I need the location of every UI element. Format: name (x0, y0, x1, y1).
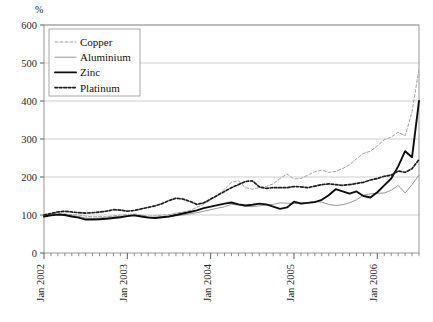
legend-label-platinum: Platinum (80, 82, 120, 94)
legend-label-zinc: Zinc (80, 66, 100, 78)
ytick-label-600: 600 (21, 20, 37, 31)
ytick-label-500: 500 (21, 58, 37, 69)
ytick-label-100: 100 (21, 210, 37, 221)
ytick-label-400: 400 (21, 96, 37, 107)
metals-price-index-chart: 0100200300400500600%Jan 2002Jan 2003Jan … (0, 0, 433, 322)
x-axis-label-2: Jan 2004 (202, 263, 213, 301)
ytick-label-0: 0 (32, 248, 37, 259)
legend-label-aluminium: Aluminium (80, 51, 131, 63)
x-axis-label-1: Jan 2003 (118, 264, 129, 302)
x-axis-label-0: Jan 2002 (35, 264, 46, 302)
x-axis-label-3: Jan 2005 (285, 264, 296, 302)
ytick-label-200: 200 (21, 172, 37, 183)
y-axis-unit-label: % (35, 4, 43, 15)
ytick-label-300: 300 (21, 134, 37, 145)
x-axis-label-4: Jan 2006 (368, 264, 379, 302)
chart-canvas: 0100200300400500600%Jan 2002Jan 2003Jan … (0, 0, 433, 322)
legend-label-copper: Copper (80, 36, 113, 48)
